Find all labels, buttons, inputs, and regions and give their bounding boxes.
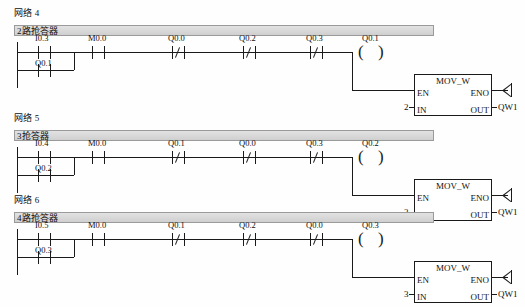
contact-slash (313, 234, 318, 245)
block-in-value: 3 (404, 289, 409, 299)
port-in: IN (417, 105, 427, 115)
ladder-diagram-canvas: 网络 42路抢答器I0.3Q0.1M0.0Q0.0Q0.2Q0.3()Q0.1M… (0, 0, 525, 307)
block-out-wire (492, 294, 497, 295)
coil-paren-right: ) (378, 230, 384, 247)
contact-bar-right (184, 151, 185, 164)
coil-label-Q0-2: Q0.2 (362, 139, 379, 148)
contact-Q0-0-nc[interactable] (172, 46, 185, 59)
contact-bar-right (184, 233, 185, 246)
contact-label-Q0-3: Q0.3 (35, 246, 52, 255)
function-block-title: MOV_W (415, 181, 491, 191)
port-eno: ENO (471, 193, 490, 203)
power-rail (17, 229, 18, 275)
coil-Q0-3[interactable]: () (358, 232, 384, 246)
contact-bar-right (322, 233, 323, 246)
branch-join-wire (74, 157, 75, 175)
end-arrow-dn (503, 277, 511, 284)
contact-Q0-3-nc[interactable] (310, 151, 323, 164)
contact-bar-left (243, 233, 244, 246)
block-out-value: QW1 (498, 207, 518, 217)
contact-bar-left (172, 151, 173, 164)
function-block-mov-w[interactable]: MOV_WENENOINOUT (414, 74, 492, 116)
rung-end-arrow-icon (503, 188, 512, 202)
contact-label-I0-3: I0.3 (35, 34, 48, 43)
coil-paren-left: ( (358, 43, 364, 60)
end-arrow-dn (503, 90, 511, 97)
end-arrow-stem (511, 270, 512, 284)
block-in-wire (409, 107, 414, 108)
block-en-drop-wire (352, 157, 353, 195)
port-en: EN (417, 193, 429, 203)
contact-Q0-3-nc[interactable] (310, 46, 323, 59)
contact-slash (175, 47, 180, 58)
contact-Q0-1-nc[interactable] (172, 233, 185, 246)
power-rail (17, 42, 18, 88)
block-out-wire (492, 107, 497, 108)
contact-slash (313, 152, 318, 163)
contact-Q0-1-nc[interactable] (172, 151, 185, 164)
contact-label-Q0-2: Q0.2 (35, 164, 52, 173)
branch-join-wire (74, 52, 75, 70)
block-out-value: QW1 (498, 289, 518, 299)
power-rail (17, 147, 18, 193)
contact-bar-right (255, 151, 256, 164)
contact-bar-left (92, 233, 93, 246)
contact-slash (246, 234, 251, 245)
contact-bar-right (184, 46, 185, 59)
contact-Q0-0-nc[interactable] (310, 233, 323, 246)
contact-M0-0-no[interactable] (92, 46, 105, 59)
block-in-wire (409, 294, 414, 295)
port-en: EN (417, 88, 429, 98)
contact-label-Q0-1: Q0.1 (168, 139, 185, 148)
contact-label-M0-0: M0.0 (88, 139, 106, 148)
coil-Q0-2[interactable]: () (358, 150, 384, 164)
block-out-value: QW1 (498, 102, 518, 112)
contact-bar-left (310, 233, 311, 246)
function-block-title: MOV_W (415, 76, 491, 86)
block-in-value: 2 (404, 102, 409, 112)
contact-bar-right (255, 46, 256, 59)
contact-bar-right (104, 233, 105, 246)
contact-Q0-0-nc[interactable] (243, 151, 256, 164)
contact-bar-left (172, 233, 173, 246)
contact-bar-right (322, 151, 323, 164)
contact-Q0-2-nc[interactable] (243, 46, 256, 59)
coil-paren-left: ( (358, 230, 364, 247)
block-en-drop-wire (352, 52, 353, 90)
coil-paren-right: ) (378, 43, 384, 60)
contact-label-Q0-3: Q0.3 (306, 34, 323, 43)
contact-bar-left (243, 46, 244, 59)
contact-label-Q0-0: Q0.0 (306, 221, 323, 230)
contact-bar-left (92, 46, 93, 59)
network-label-5: 网络 5 (14, 113, 40, 123)
network-label-6: 网络 6 (14, 195, 40, 205)
port-out: OUT (471, 105, 490, 115)
contact-label-Q0-1: Q0.1 (168, 221, 185, 230)
contact-Q0-2-nc[interactable] (243, 233, 256, 246)
coil-label-Q0-1: Q0.1 (362, 34, 379, 43)
contact-bar-right (322, 46, 323, 59)
coil-label-Q0-3: Q0.3 (362, 221, 379, 230)
contact-M0-0-no[interactable] (92, 151, 105, 164)
contact-label-M0-0: M0.0 (88, 221, 106, 230)
port-in: IN (417, 292, 427, 302)
contact-M0-0-no[interactable] (92, 233, 105, 246)
branch-join-wire (74, 239, 75, 257)
port-en: EN (417, 275, 429, 285)
end-arrow-stem (511, 83, 512, 97)
contact-bar-left (243, 151, 244, 164)
contact-label-Q0-2: Q0.2 (239, 221, 256, 230)
function-block-mov-w[interactable]: MOV_WENENOINOUT (414, 261, 492, 303)
contact-bar-right (104, 151, 105, 164)
contact-bar-left (172, 46, 173, 59)
end-arrow-dn (503, 195, 511, 202)
coil-Q0-1[interactable]: () (358, 45, 384, 59)
contact-bar-right (255, 233, 256, 246)
contact-slash (246, 152, 251, 163)
rung-end-arrow-icon (503, 270, 512, 284)
block-en-drop-wire (352, 239, 353, 277)
network-label-4: 网络 4 (14, 8, 40, 18)
contact-bar-left (92, 151, 93, 164)
block-out-wire (492, 212, 497, 213)
contact-bar-left (310, 151, 311, 164)
